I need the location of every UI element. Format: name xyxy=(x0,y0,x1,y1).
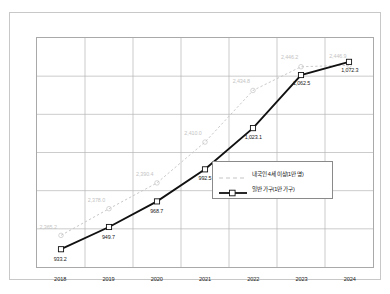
x-tick-2022: 2022 xyxy=(247,276,259,282)
legend-label-1: 일반 가구(1만 가구) xyxy=(252,185,295,193)
x-tick-2023: 2023 xyxy=(296,276,308,282)
legend-item-0: 내국인 4세 이상(1만 명) xyxy=(218,166,327,181)
x-axis: 2018201920202021202220232024 xyxy=(36,270,374,288)
data-label-naeguk-2020: 2,390.4 xyxy=(136,171,153,177)
legend-item-1: 일반 가구(1만 가구) xyxy=(218,181,327,196)
data-label-gagu-2022: 1,023.1 xyxy=(245,134,262,140)
x-tick-2018: 2018 xyxy=(54,276,66,282)
x-tick-2021: 2021 xyxy=(199,276,211,282)
data-label-naeguk-2021: 2,410.0 xyxy=(184,130,201,136)
plot-area xyxy=(36,37,374,268)
data-label-naeguk-2019: 2,378.0 xyxy=(88,197,105,203)
series-layer xyxy=(37,38,373,267)
chart-outer-frame: 2,365.22,378.02,390.42,410.02,434.82,446… xyxy=(9,12,381,280)
legend-marker-dashed-line xyxy=(218,169,248,179)
legend-label-0: 내국인 4세 이상(1만 명) xyxy=(252,170,304,178)
x-tick-2024: 2024 xyxy=(344,276,356,282)
data-label-gagu-2020: 968.7 xyxy=(150,208,163,214)
data-label-naeguk-2023: 2,446.2 xyxy=(281,54,298,60)
data-label-naeguk-2018: 2,365.2 xyxy=(39,224,56,230)
data-label-gagu-2024: 1,072.3 xyxy=(341,67,358,73)
x-tick-2020: 2020 xyxy=(151,276,163,282)
data-label-naeguk-2022: 2,434.8 xyxy=(233,78,250,84)
data-label-gagu-2021: 992.5 xyxy=(199,175,212,181)
data-label-gagu-2018: 933.2 xyxy=(54,256,67,262)
data-label-gagu-2019: 949.7 xyxy=(102,234,115,240)
data-label-naeguk-2024: 2,446.9 xyxy=(329,53,346,59)
x-tick-2019: 2019 xyxy=(102,276,114,282)
chart-page: 2,365.22,378.02,390.42,410.02,434.82,446… xyxy=(0,0,390,294)
chart-legend: 내국인 4세 이상(1만 명) 일반 가구(1만 가구) xyxy=(212,161,333,199)
data-label-gagu-2023: 1,062.5 xyxy=(293,80,310,86)
legend-marker-solid-square-line xyxy=(218,184,248,194)
